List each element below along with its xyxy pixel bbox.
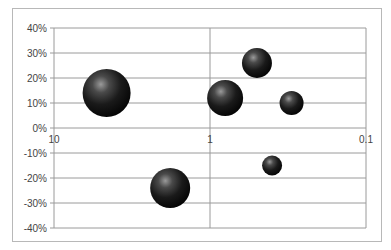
- bubble: [150, 168, 190, 208]
- y-tick-label: 20%: [27, 73, 47, 84]
- y-tick-label: -30%: [24, 198, 47, 209]
- y-tick-label: -10%: [24, 148, 47, 159]
- y-tick-label: 10%: [27, 98, 47, 109]
- x-tick-label: 0.1: [359, 134, 373, 145]
- gridlines: [50, 28, 366, 228]
- bubble-chart: 40%30%20%10%0%-10%-20%-30%-40% 1010.1: [0, 0, 391, 250]
- y-tick-label: 40%: [27, 23, 47, 34]
- bubble: [242, 48, 272, 78]
- x-axis-labels: 1010.1: [48, 134, 373, 145]
- y-tick-label: -20%: [24, 173, 47, 184]
- x-tick-label: 10: [48, 134, 60, 145]
- y-tick-label: 30%: [27, 48, 47, 59]
- bubble: [262, 156, 282, 176]
- y-axis-labels: 40%30%20%10%0%-10%-20%-30%-40%: [24, 23, 47, 234]
- bubble: [280, 91, 304, 115]
- y-tick-label: 0%: [33, 123, 48, 134]
- x-tick-label: 1: [207, 134, 213, 145]
- bubble: [207, 80, 243, 116]
- y-tick-label: -40%: [24, 223, 47, 234]
- bubble: [83, 69, 131, 117]
